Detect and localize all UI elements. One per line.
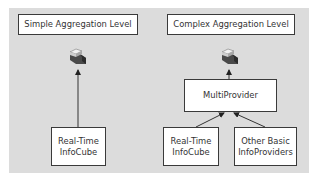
- connector-arrows: [0, 0, 318, 180]
